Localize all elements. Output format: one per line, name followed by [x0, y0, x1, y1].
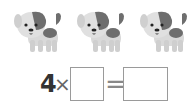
puppy-icon	[75, 8, 127, 54]
times-sign: ×	[54, 72, 71, 96]
puppy-icon	[12, 8, 64, 54]
answer-box-product[interactable]	[123, 67, 168, 101]
puppy-icon	[138, 8, 190, 54]
answer-box-factor[interactable]	[70, 67, 104, 101]
